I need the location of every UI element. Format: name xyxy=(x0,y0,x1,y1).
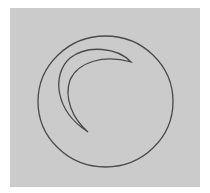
diagram-canvas xyxy=(0,0,210,193)
crescent-shape xyxy=(59,49,131,132)
outer-circle xyxy=(38,36,173,167)
